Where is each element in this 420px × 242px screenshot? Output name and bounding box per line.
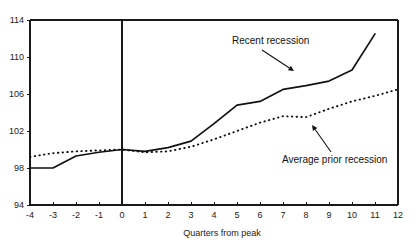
x-tick-label: -1 bbox=[95, 210, 103, 220]
x-tick-label: 1 bbox=[142, 210, 147, 220]
x-tick-label: 10 bbox=[347, 210, 357, 220]
line-chart: 9498102106110114-4-3-2-10123456789101112… bbox=[0, 0, 420, 242]
x-tick-label: 12 bbox=[393, 210, 403, 220]
x-tick-label: 2 bbox=[165, 210, 170, 220]
x-tick-label: -2 bbox=[72, 210, 80, 220]
x-tick-label: 8 bbox=[303, 210, 308, 220]
x-tick-label: 4 bbox=[211, 210, 216, 220]
x-tick-label: 6 bbox=[257, 210, 262, 220]
y-tick-label: 110 bbox=[10, 52, 24, 62]
chart-container: 9498102106110114-4-3-2-10123456789101112… bbox=[0, 0, 420, 242]
y-tick-label: 114 bbox=[10, 15, 24, 25]
x-tick-label: 7 bbox=[280, 210, 285, 220]
annotation-arrow-head bbox=[288, 66, 294, 71]
series-line-recent-recession bbox=[30, 34, 375, 168]
annotation-label-recent-recession: Recent recession bbox=[232, 35, 309, 46]
y-tick-label: 98 bbox=[14, 163, 24, 173]
x-axis-title: Quarters from peak bbox=[183, 228, 261, 238]
annotation-arrow-line bbox=[262, 50, 289, 68]
x-tick-label: 11 bbox=[370, 210, 379, 220]
x-tick-label: -3 bbox=[49, 210, 57, 220]
y-tick-label: 94 bbox=[14, 200, 24, 210]
annotation-label-average-prior-recession: Average prior recession bbox=[282, 154, 387, 165]
annotation-arrow-line bbox=[315, 129, 331, 152]
annotation-arrow-head bbox=[312, 125, 317, 131]
y-tick-label: 102 bbox=[9, 126, 24, 136]
x-tick-label: 5 bbox=[234, 210, 239, 220]
x-tick-label: 9 bbox=[326, 210, 331, 220]
x-tick-label: 3 bbox=[188, 210, 193, 220]
y-tick-label: 106 bbox=[9, 89, 24, 99]
x-tick-label: -4 bbox=[26, 210, 34, 220]
x-tick-label: 0 bbox=[119, 210, 124, 220]
